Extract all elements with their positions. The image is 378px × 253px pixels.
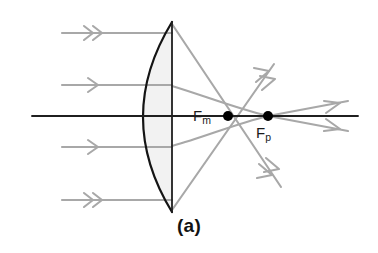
focal-point-marginal bbox=[223, 111, 233, 121]
focal-point-paraxial-label-subscript: p bbox=[265, 131, 271, 143]
focal-point-marginal-label-base: F bbox=[193, 107, 202, 124]
focal-point-marginal-label-subscript: m bbox=[202, 114, 211, 126]
figure-caption: (a) bbox=[0, 215, 378, 237]
focal-point-paraxial bbox=[263, 111, 273, 121]
spherical-aberration-figure: Fm Fp (a) bbox=[0, 0, 378, 253]
focal-point-marginal-label: Fm bbox=[193, 108, 211, 123]
focal-point-paraxial-label-base: F bbox=[256, 124, 265, 141]
focal-point-paraxial-label: Fp bbox=[256, 125, 271, 140]
